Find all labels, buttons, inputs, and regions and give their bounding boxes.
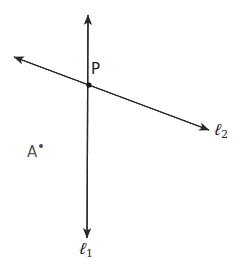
- line-1-downward: [87, 15, 88, 238]
- point-p-label: P: [91, 62, 100, 77]
- point-p-marker: [86, 82, 91, 87]
- line-2-forward: [14, 57, 209, 130]
- line-1-label-subscript: 1: [86, 247, 93, 260]
- line-1-label: ℓ1: [79, 240, 93, 259]
- point-a-label: A: [27, 145, 37, 160]
- line-2-label-subscript: 2: [221, 128, 228, 141]
- geometry-canvas: [0, 0, 249, 264]
- line-2-label: ℓ2: [214, 121, 228, 140]
- geometry-figure: P A ℓ2 ℓ1: [0, 0, 249, 264]
- point-a-marker: [39, 144, 43, 148]
